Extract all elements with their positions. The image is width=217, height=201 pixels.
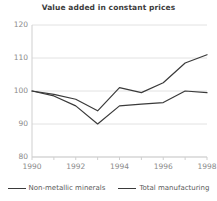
- x-tick-label: 1990: [17, 162, 47, 171]
- series-line: [32, 91, 207, 124]
- chart-container: Value added in constant prices 809010011…: [0, 0, 217, 201]
- data-series-group: [32, 55, 207, 124]
- y-tick-label: 100: [2, 86, 28, 95]
- legend-item: Non-metallic minerals: [8, 184, 106, 192]
- chart-legend: Non-metallic minerals Total manufacturin…: [0, 184, 217, 192]
- gridlines: [32, 25, 207, 157]
- legend-item-label: Non-metallic minerals: [29, 184, 106, 192]
- legend-line-swatch: [118, 188, 136, 189]
- y-tick-label: 120: [2, 20, 28, 29]
- x-tick-label: 1996: [148, 162, 178, 171]
- y-tick-label: 90: [2, 119, 28, 128]
- x-tick-label: 1998: [192, 162, 217, 171]
- x-tick-label: 1992: [61, 162, 91, 171]
- legend-item: Total manufacturing: [118, 184, 209, 192]
- series-line: [32, 55, 207, 111]
- y-tick-label: 110: [2, 53, 28, 62]
- x-tick-label: 1994: [105, 162, 135, 171]
- y-tick-label: 80: [2, 152, 28, 161]
- legend-item-label: Total manufacturing: [139, 184, 209, 192]
- legend-line-swatch: [8, 188, 26, 189]
